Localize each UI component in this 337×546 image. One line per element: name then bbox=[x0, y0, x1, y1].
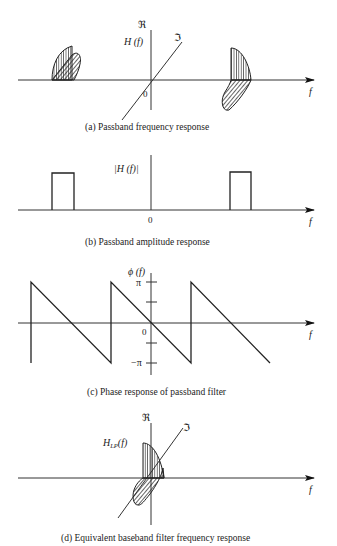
real-axis-label: ℜ bbox=[138, 19, 147, 30]
panel-d-caption: (d) Equivalent baseband filter frequency… bbox=[61, 533, 250, 544]
real-axis-label: ℜ bbox=[142, 412, 151, 423]
panel-c-phase-response: ϕ (f) π −π 0 f (c) Phase response of pas… bbox=[18, 266, 314, 398]
origin-label: 0 bbox=[142, 327, 147, 337]
real-part-lobe bbox=[143, 443, 164, 478]
function-label: HLP(f) bbox=[102, 437, 128, 449]
figure-canvas: ℜ H (f) ℑ 0 f (a) Passband frequency res… bbox=[0, 0, 337, 546]
frequency-axis-label: f bbox=[309, 329, 313, 340]
positive-passband-rect bbox=[230, 172, 251, 210]
panel-c-caption: (c) Phase response of passband filter bbox=[87, 387, 227, 398]
svg-text:HLP(f): HLP(f) bbox=[102, 437, 128, 449]
origin-label: 0 bbox=[148, 215, 153, 225]
panel-b-passband-amplitude-response: |H (f)| 0 f (b) Passband amplitude respo… bbox=[18, 155, 314, 248]
panel-b-caption: (b) Passband amplitude response bbox=[85, 237, 210, 248]
function-label: H (f) bbox=[123, 36, 144, 48]
frequency-axis-label: f bbox=[309, 484, 313, 495]
amplitude-label: |H (f)| bbox=[114, 163, 139, 175]
imaginary-axis bbox=[122, 42, 182, 120]
panel-a-passband-frequency-response: ℜ H (f) ℑ 0 f (a) Passband frequency res… bbox=[18, 19, 314, 133]
frequency-axis-label: f bbox=[309, 216, 313, 227]
negative-frequency-lobe bbox=[52, 46, 81, 80]
tick-pi-label: π bbox=[136, 277, 141, 288]
negative-passband-rect bbox=[52, 173, 74, 210]
positive-frequency-lobe bbox=[222, 48, 251, 110]
origin-label: 0 bbox=[143, 89, 148, 99]
panel-d-baseband-frequency-response: ℜ ℑ HLP(f) f (d) Equivalent baseband fil… bbox=[18, 412, 314, 544]
imaginary-axis-label: ℑ bbox=[183, 422, 190, 433]
imaginary-axis-label: ℑ bbox=[174, 32, 181, 43]
panel-a-caption: (a) Passband frequency response bbox=[85, 122, 209, 133]
frequency-axis-label: f bbox=[309, 86, 313, 97]
tick-neg-pi-label: −π bbox=[131, 357, 142, 368]
